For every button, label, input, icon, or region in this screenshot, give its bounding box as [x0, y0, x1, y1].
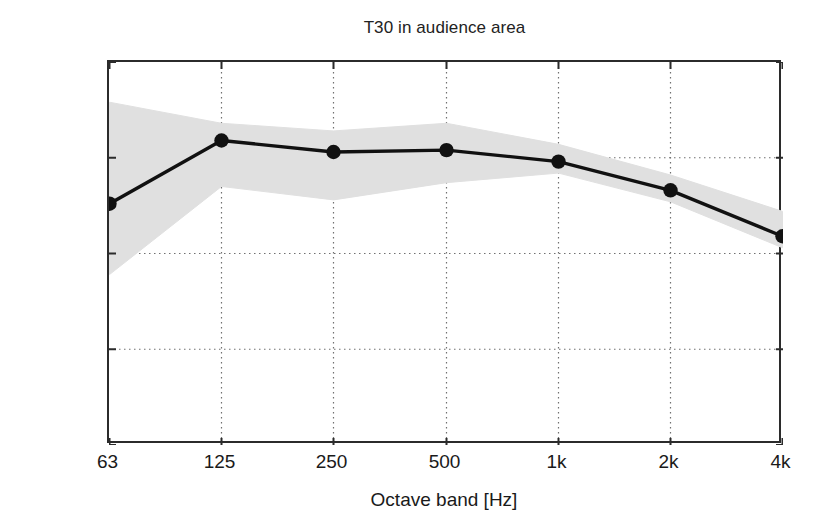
x-tick-label: 1k	[546, 451, 566, 473]
x-tick-label: 250	[316, 451, 348, 473]
x-tick-label: 500	[429, 451, 461, 473]
x-tick-label: 4k	[770, 451, 790, 473]
x-axis-tick-labels: 631252505001k2k4k	[0, 0, 813, 532]
x-tick-label: 63	[97, 451, 118, 473]
x-tick-label: 2k	[658, 451, 678, 473]
figure-canvas: T30 in audience area 00.511.52 631252505…	[0, 0, 813, 532]
x-axis-title: Octave band [Hz]	[107, 489, 781, 511]
x-tick-label: 125	[204, 451, 236, 473]
